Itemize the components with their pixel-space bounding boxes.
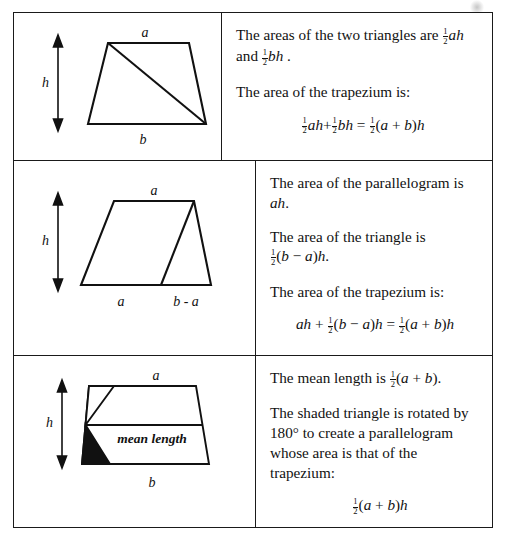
equation-term-half-bh: 12bh [332, 116, 353, 133]
fraction-one-half: 12 [390, 371, 395, 389]
expr-half-ah-vars: ah [449, 26, 464, 43]
rotated-triangle-outline [86, 386, 115, 425]
equation-term-ah: ah [296, 315, 311, 332]
triangle-areas-lead: The areas of the two triangles are [236, 26, 438, 43]
paragraph-mean-length: The mean length is 12(a + b). [270, 368, 482, 389]
equation-term-half-a-plus-b-h: 12(a + b)h [399, 315, 454, 332]
table-row: h a a b - a The area of the parallelogra… [14, 161, 492, 356]
fraction-one-half: 12 [353, 498, 358, 516]
trapezium-with-mean-length-diagram: h a b mean length [44, 364, 239, 514]
shaded-triangle [82, 425, 110, 464]
figure-cell-two-triangles: h a b [14, 13, 222, 160]
expr-half-b-minus-a-h: 12(b − a)h. [270, 247, 329, 264]
height-label: h [42, 75, 49, 90]
paragraph-triangle-area: The area of the triangle is 12(b − a)h. [270, 227, 482, 268]
fraction-one-half: 12 [370, 117, 375, 135]
rotation-line-4: trapezium: [270, 464, 335, 481]
parallelogram-triangle-divider [161, 201, 194, 285]
figure-cell-parallelogram: h a a b - a [14, 161, 256, 355]
rotation-line-1: The shaded triangle is rotated by [270, 404, 469, 421]
bottom-side-label: b [149, 475, 156, 490]
equation-equals-sign: = [386, 315, 395, 332]
equation-parallelogram: ah + 12(b − a)h = 12(a + b)h [270, 315, 482, 335]
paragraph-trapezium-area-intro: The area of the trapezium is: [236, 82, 482, 102]
equation-two-triangles: 12ah+12bh = 12(a + b)h [236, 116, 482, 136]
fraction-one-half: 12 [399, 317, 404, 335]
trapezium-outline [81, 201, 211, 285]
equation-operator-plus: + [315, 315, 324, 332]
figure-cell-mean-length: h a b mean length [14, 356, 256, 527]
equation-mean-length: 12(a + b)h [270, 496, 482, 516]
mean-length-lead: The mean length is [270, 369, 386, 386]
fraction-one-half: 12 [262, 49, 267, 67]
bottom-right-side-label: b - a [173, 294, 199, 309]
fraction-one-half: 12 [443, 28, 448, 46]
equation-term-half-a-plus-b-h: 12(a + b)h [369, 116, 424, 133]
expr-half-ah: 12ah [442, 26, 463, 43]
fraction-one-half: 12 [332, 117, 337, 135]
paragraph-trapezium-area-intro: The area of the trapezium is: [270, 282, 482, 302]
table-row: h a b The areas of the two triangles are… [14, 13, 492, 161]
top-side-label: a [151, 183, 158, 198]
parallelogram-area-lead: The area of the parallelogram is [270, 174, 464, 191]
equation-term-half-b-minus-a-h: 12(b − a)h [327, 315, 382, 332]
mean-length-label: mean length [117, 431, 186, 446]
bottom-left-side-label: a [118, 294, 125, 309]
top-side-label: a [153, 368, 160, 383]
equation-operator-plus: + [323, 116, 332, 133]
height-arrow [58, 380, 67, 468]
sentence-period: . [285, 194, 289, 211]
fraction-one-half: 12 [271, 249, 276, 267]
rotation-line-3: whose area is that of the [270, 444, 417, 461]
top-side-label: a [142, 25, 149, 40]
rotation-line-2: 180° to create a parallelogram [270, 424, 453, 441]
height-label: h [46, 415, 53, 430]
height-arrow [54, 35, 63, 131]
sentence-period: . [287, 47, 291, 64]
height-arrow [54, 193, 63, 291]
triangle-area-lead: The area of the triangle is [270, 228, 426, 245]
equation-equals-sign: = [357, 116, 366, 133]
trapezium-outline [88, 43, 206, 124]
paragraph-triangle-areas: The areas of the two triangles are 12ah … [236, 25, 482, 68]
text-cell-two-triangles: The areas of the two triangles are 12ah … [222, 13, 492, 160]
expr-half-a-plus-b: 12(a + b). [390, 369, 442, 386]
text-cell-mean-length: The mean length is 12(a + b). The shaded… [256, 356, 492, 527]
height-label: h [42, 233, 49, 248]
fraction-one-half: 12 [302, 117, 307, 135]
paragraph-parallelogram-area: The area of the parallelogram is ah. [270, 173, 482, 213]
conjunction-and: and [236, 47, 258, 64]
fraction-one-half: 12 [328, 317, 333, 335]
bottom-side-label: b [140, 132, 147, 147]
trapezium-split-into-two-triangles-diagram: h a b [36, 21, 236, 151]
scan-smudge [470, 0, 484, 12]
text-cell-parallelogram: The area of the parallelogram is ah. The… [256, 161, 492, 355]
expr-half-bh: 12bh [262, 47, 283, 64]
equation-term-half-a-plus-b-h: 12(a + b)h [352, 496, 407, 513]
derivations-table: h a b The areas of the two triangles are… [13, 12, 493, 528]
table-row: h a b mean length The mean length is 12(… [14, 356, 492, 527]
expr-ah: ah [270, 194, 285, 211]
equation-term-half-ah: 12ah [302, 116, 323, 133]
expr-half-bh-vars: bh [268, 47, 283, 64]
paragraph-rotation-explanation: The shaded triangle is rotated by 180° t… [270, 403, 482, 482]
trapezium-split-into-parallelogram-and-triangle-diagram: h a a b - a [36, 175, 236, 345]
